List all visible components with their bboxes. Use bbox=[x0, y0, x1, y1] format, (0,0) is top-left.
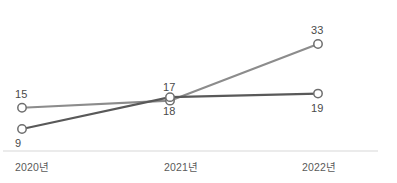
x-axis-tick-2020: 2020년 bbox=[15, 162, 49, 173]
data-point-marker bbox=[18, 104, 26, 112]
data-point-marker bbox=[314, 89, 322, 97]
data-label-series-a-2020: 15 bbox=[15, 89, 28, 100]
chart-plot-area bbox=[0, 0, 397, 183]
data-point-marker bbox=[314, 40, 322, 48]
x-axis-tick-2022: 2022년 bbox=[302, 162, 336, 173]
data-label-series-b-2020: 9 bbox=[15, 138, 21, 149]
line-chart: 15 17 33 9 18 19 2020년 2021년 2022년 bbox=[0, 0, 397, 183]
data-label-series-b-2022: 19 bbox=[311, 103, 324, 114]
data-label-series-b-2021: 18 bbox=[163, 106, 176, 117]
x-axis-tick-2021: 2021년 bbox=[164, 162, 198, 173]
data-label-series-a-2022: 33 bbox=[311, 25, 324, 36]
data-point-marker bbox=[166, 93, 174, 101]
data-point-marker bbox=[18, 125, 26, 133]
data-label-series-a-2021: 17 bbox=[163, 82, 176, 93]
